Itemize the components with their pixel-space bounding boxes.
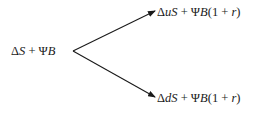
label-part: B (200, 91, 208, 105)
root-node-label: ΔS + ΨB (11, 45, 55, 58)
up-branch-arrow (73, 11, 155, 51)
label-part: + Ψ (178, 91, 201, 105)
down-node-label: ΔdS + ΨB(1 + r) (157, 92, 240, 105)
label-part: Δ (157, 91, 165, 105)
binomial-tree-diagram: ΔS + ΨB ΔuS + ΨB(1 + r) ΔdS + ΨB(1 + r) (0, 0, 259, 114)
label-part: (1 + (208, 91, 232, 105)
down-branch-arrow (73, 51, 155, 97)
label-part: dS (165, 91, 178, 105)
label-part: ) (236, 5, 240, 19)
label-part: B (200, 5, 208, 19)
label-part: Δ (157, 5, 165, 19)
up-node-label: ΔuS + ΨB(1 + r) (157, 6, 240, 19)
label-part: Δ (11, 44, 19, 58)
label-part: B (48, 44, 56, 58)
label-part: ) (236, 91, 240, 105)
label-part: + Ψ (178, 5, 201, 19)
label-part: (1 + (208, 5, 232, 19)
label-part: + Ψ (25, 44, 48, 58)
label-part: uS (165, 5, 178, 19)
